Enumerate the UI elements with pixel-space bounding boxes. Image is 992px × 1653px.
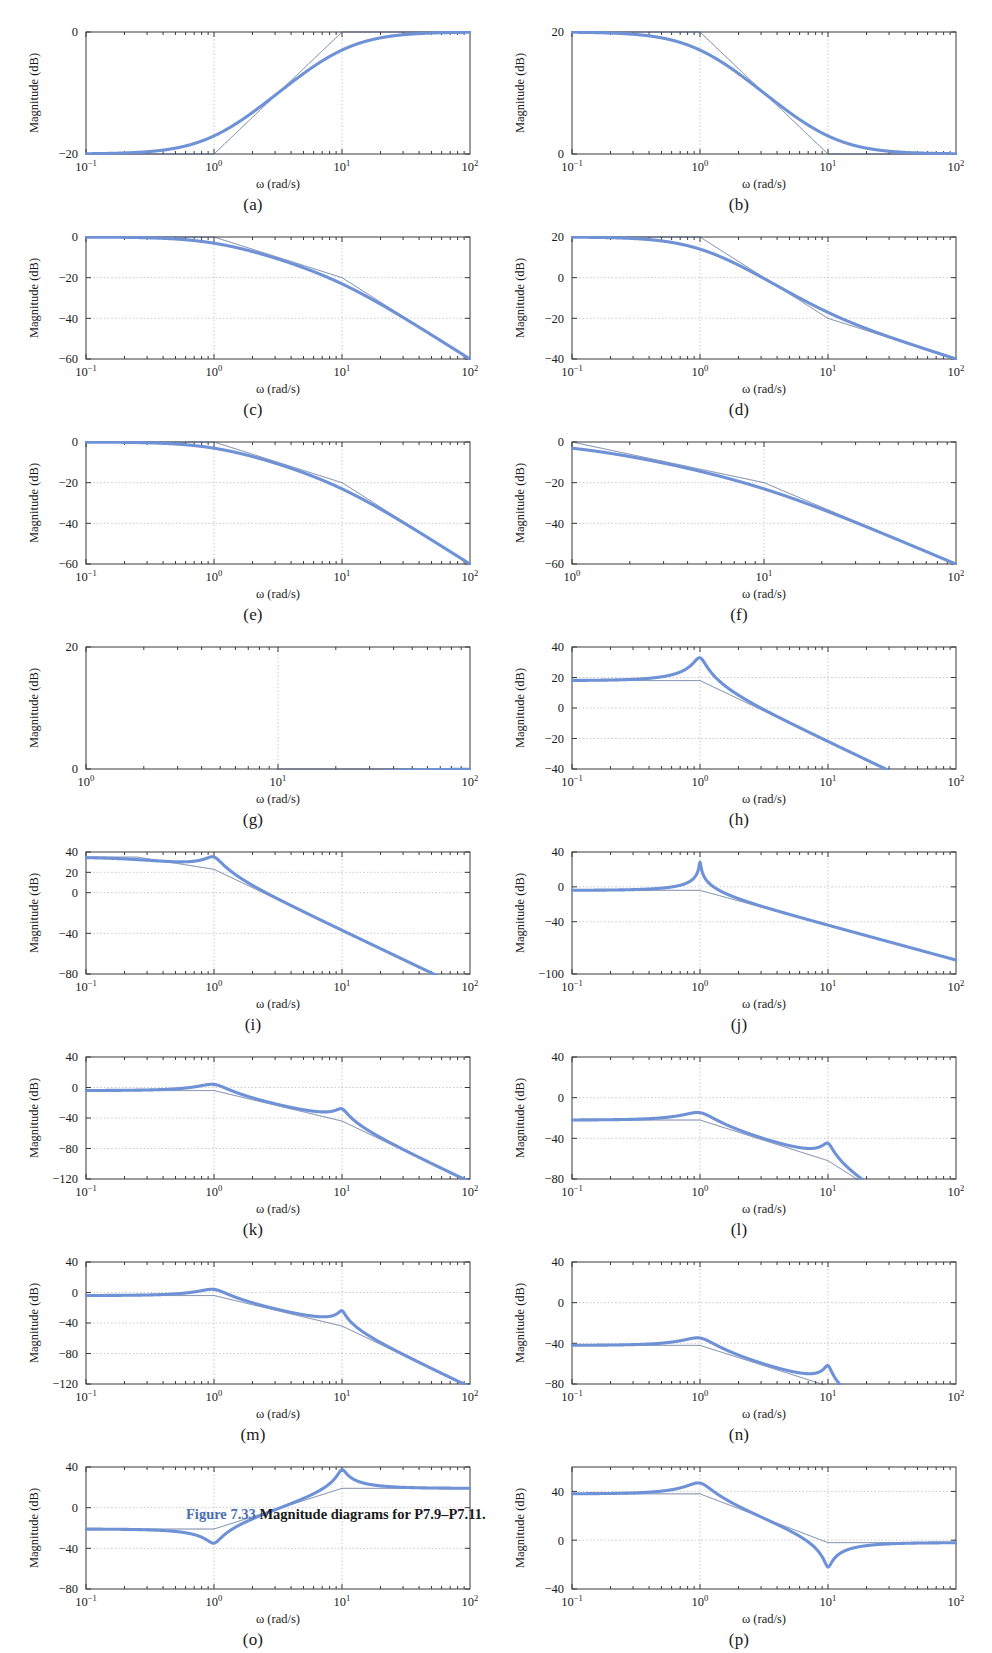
x-tick-label: 102 (462, 773, 479, 789)
magnitude-curve (86, 1084, 470, 1182)
x-tick-label: 101 (820, 773, 837, 789)
y-axis-label: Magnitude (dB) (513, 668, 527, 748)
x-tick-label: 100 (206, 1388, 223, 1404)
x-tick-label: 10−1 (75, 1593, 97, 1609)
figure-caption-text: Magnitude diagrams for P7.9–P7.11. (259, 1506, 485, 1522)
x-axis-label: ω (rad/s) (256, 792, 300, 806)
asymptote-curve (572, 890, 956, 960)
panel-label-c: (c) (243, 400, 262, 420)
x-tick-label: 100 (78, 773, 95, 789)
y-tick-label: 0 (558, 1534, 564, 1548)
plot-area-o: 10−1100101102−80−40040ω (rad/s)Magnitude… (22, 1453, 484, 1629)
plot-area-l: 10−1100101102−80−40040ω (rad/s)Magnitude… (508, 1043, 970, 1219)
x-axis-label: ω (rad/s) (742, 177, 786, 191)
y-tick-label: −20 (544, 732, 564, 746)
y-tick-label: 40 (552, 1485, 565, 1499)
x-tick-label: 101 (820, 978, 837, 994)
y-axis-label: Magnitude (dB) (27, 53, 41, 133)
panel-grid: 10−1100101102−200ω (rad/s)Magnitude (dB)… (22, 18, 970, 1653)
x-tick-label: 100 (692, 363, 709, 379)
x-axis-label: ω (rad/s) (256, 1202, 300, 1216)
x-tick-label: 10−1 (75, 1388, 97, 1404)
x-tick-label: 100 (692, 978, 709, 994)
y-tick-label: 0 (558, 435, 564, 449)
magnitude-curve (572, 32, 956, 153)
panel-label-j: (j) (731, 1015, 748, 1035)
x-axis-label: ω (rad/s) (742, 997, 786, 1011)
panel-row: 10−1100101102−120−80−40040ω (rad/s)Magni… (22, 1043, 970, 1248)
figure-number: Figure 7.33 (186, 1506, 256, 1522)
panel-label-d: (d) (729, 400, 749, 420)
x-tick-label: 10−1 (75, 1183, 97, 1199)
panel-label-o: (o) (243, 1630, 263, 1650)
x-axis-label: ω (rad/s) (256, 382, 300, 396)
x-tick-label: 102 (948, 773, 965, 789)
y-axis-label: Magnitude (dB) (513, 1078, 527, 1158)
magnitude-curve (572, 1338, 956, 1390)
x-tick-label: 10−1 (561, 978, 583, 994)
plot-panel-k: 10−1100101102−120−80−40040ω (rad/s)Magni… (22, 1043, 484, 1244)
y-tick-label: −40 (544, 517, 564, 531)
plot-panel-a: 10−1100101102−200ω (rad/s)Magnitude (dB)… (22, 18, 484, 219)
x-tick-label: 101 (820, 1183, 837, 1199)
plot-area-a: 10−1100101102−200ω (rad/s)Magnitude (dB) (22, 18, 484, 194)
plot-frame (86, 852, 470, 974)
x-tick-label: 102 (948, 158, 965, 174)
x-tick-label: 101 (820, 363, 837, 379)
x-axis-label: ω (rad/s) (256, 177, 300, 191)
x-axis-label: ω (rad/s) (256, 1612, 300, 1626)
x-tick-label: 10−1 (561, 1388, 583, 1404)
asymptote-curve (86, 857, 470, 979)
plot-frame (86, 442, 470, 564)
y-axis-label: Magnitude (dB) (513, 53, 527, 133)
magnitude-curve (572, 1112, 956, 1185)
y-tick-label: 40 (66, 1255, 79, 1269)
bode-magnitude-figure: 10−1100101102−200ω (rad/s)Magnitude (dB)… (0, 0, 992, 1653)
x-tick-label: 101 (334, 978, 351, 994)
plot-panel-h: 10−1100101102−40−2002040ω (rad/s)Magnitu… (508, 633, 970, 834)
y-tick-label: −40 (58, 1111, 78, 1125)
x-tick-label: 100 (692, 158, 709, 174)
plot-frame (572, 852, 956, 974)
y-tick-label: −20 (544, 476, 564, 490)
y-tick-label: −40 (58, 312, 78, 326)
x-tick-label: 102 (462, 158, 479, 174)
plot-area-j: 10−1100101102−100−40040ω (rad/s)Magnitud… (508, 838, 970, 1014)
magnitude-curve (572, 237, 956, 359)
y-tick-label: 0 (558, 1091, 564, 1105)
plot-panel-l: 10−1100101102−80−40040ω (rad/s)Magnitude… (508, 1043, 970, 1244)
y-tick-label: 40 (552, 1050, 565, 1064)
y-tick-label: 0 (72, 1081, 78, 1095)
y-tick-label: −20 (58, 476, 78, 490)
x-axis-label: ω (rad/s) (256, 1407, 300, 1421)
x-axis-label: ω (rad/s) (742, 1612, 786, 1626)
x-axis-label: ω (rad/s) (256, 587, 300, 601)
y-tick-label: 0 (558, 1296, 564, 1310)
y-axis-label: Magnitude (dB) (513, 463, 527, 543)
y-tick-label: −40 (544, 1582, 564, 1596)
y-axis-label: Magnitude (dB) (27, 1283, 41, 1363)
plot-frame (86, 1467, 470, 1589)
y-tick-label: −80 (58, 1582, 78, 1596)
y-tick-label: 0 (72, 1286, 78, 1300)
x-axis-label: ω (rad/s) (256, 997, 300, 1011)
y-tick-label: 40 (66, 1460, 79, 1474)
y-tick-label: 40 (552, 1255, 565, 1269)
plot-panel-n: 10−1100101102−80−40040ω (rad/s)Magnitude… (508, 1248, 970, 1449)
magnitude-curve (86, 857, 470, 980)
panel-label-f: (f) (730, 605, 748, 625)
plot-panel-i: 10−1100101102−80−4002040ω (rad/s)Magnitu… (22, 838, 484, 1039)
panel-label-b: (b) (729, 195, 749, 215)
x-tick-label: 10−1 (561, 1183, 583, 1199)
x-tick-label: 101 (756, 568, 773, 584)
x-tick-label: 10−1 (75, 158, 97, 174)
plot-panel-f: 100101102−60−40−200ω (rad/s)Magnitude (d… (508, 428, 970, 629)
y-tick-label: −40 (58, 1316, 78, 1330)
x-tick-label: 102 (462, 1388, 479, 1404)
y-axis-label: Magnitude (dB) (513, 1283, 527, 1363)
x-tick-label: 100 (206, 363, 223, 379)
x-tick-label: 102 (948, 1183, 965, 1199)
y-tick-label: −80 (58, 1347, 78, 1361)
y-tick-label: 0 (558, 880, 564, 894)
x-tick-label: 102 (948, 363, 965, 379)
